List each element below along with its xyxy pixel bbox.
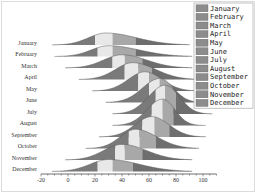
legend-label: December <box>210 99 244 107</box>
ridgeline-chart: JanuaryFebruaryMarchAprilMayJuneJulyAugu… <box>0 0 255 192</box>
x-tick-label: 40 <box>119 177 125 183</box>
legend-swatch <box>196 39 208 46</box>
legend-label: November <box>210 91 244 99</box>
legend-label: September <box>210 73 248 81</box>
x-axis: -20020406080100 <box>37 174 217 183</box>
x-tick-label: 60 <box>146 177 152 183</box>
y-label: September <box>11 132 37 138</box>
y-axis-labels: JanuaryFebruaryMarchAprilMayJuneJulyAugu… <box>11 40 37 173</box>
ridge-september <box>99 117 206 137</box>
legend-swatch <box>196 31 208 38</box>
y-label: February <box>15 51 37 57</box>
x-tick-label: 0 <box>67 177 70 183</box>
y-label: August <box>20 120 38 126</box>
legend-label: March <box>210 22 231 30</box>
ridges <box>52 33 213 172</box>
legend-label: April <box>210 30 231 38</box>
legend-label: May <box>210 39 223 47</box>
legend-swatch <box>196 74 208 81</box>
y-label: July <box>27 109 37 115</box>
x-tick-label: 80 <box>173 177 179 183</box>
legend-label: June <box>210 48 227 56</box>
legend-swatch <box>196 22 208 29</box>
y-label: November <box>12 155 37 161</box>
legend-swatch <box>196 5 208 12</box>
y-label: October <box>18 143 37 149</box>
y-label: May <box>26 86 37 92</box>
ridge-january <box>52 33 190 45</box>
y-label: June <box>26 97 37 103</box>
legend-swatch <box>196 48 208 55</box>
legend-swatch <box>196 91 208 98</box>
legend-swatch <box>196 56 208 63</box>
y-label: January <box>18 40 37 46</box>
ridge-october <box>86 129 199 148</box>
y-label: April <box>24 74 37 80</box>
x-tick-label: 100 <box>199 177 208 183</box>
legend-label: January <box>210 5 240 13</box>
legend-swatch <box>196 82 208 89</box>
y-label: December <box>12 166 37 172</box>
legend-swatch <box>196 99 208 106</box>
legend-swatch <box>196 65 208 72</box>
legend: JanuaryFebruaryMarchAprilMayJuneJulyAugu… <box>194 3 253 108</box>
legend-label: February <box>210 13 244 21</box>
legend-swatch <box>196 13 208 20</box>
ridge-december <box>52 160 192 172</box>
legend-label: October <box>210 82 240 90</box>
legend-label: August <box>210 65 235 73</box>
legend-label: July <box>210 56 227 64</box>
y-label: March <box>21 63 37 69</box>
x-tick-label: -20 <box>37 177 45 183</box>
x-tick-label: 20 <box>92 177 98 183</box>
